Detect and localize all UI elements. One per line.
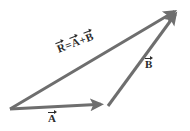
vector-addition-figure: R=A+B A B	[0, 0, 190, 131]
vector-a-symbol: A	[48, 110, 56, 124]
vector-b-label: B	[145, 56, 152, 70]
vector-b-symbol: B	[145, 56, 152, 70]
vector-diagram-canvas	[0, 0, 190, 131]
vector-a-letter: A	[48, 113, 56, 124]
vector-a-arrow	[10, 104, 101, 109]
vector-b-letter: B	[145, 59, 152, 70]
vector-a-label: A	[48, 110, 56, 124]
vector-b-arrow	[108, 14, 176, 106]
